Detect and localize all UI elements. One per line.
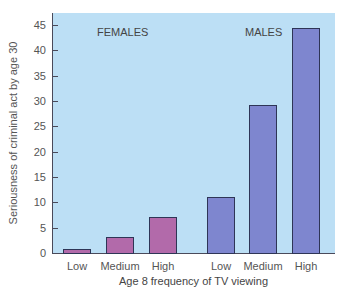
- bar-males-high: [292, 28, 320, 254]
- y-axis-label: Seriousness of criminal act by age 30: [7, 42, 19, 225]
- x-category-male-high: High: [281, 260, 331, 272]
- males-group-label: MALES: [245, 26, 282, 38]
- y-tick: [53, 152, 58, 153]
- y-tick: [53, 101, 58, 102]
- y-tick-label: 45: [24, 19, 46, 31]
- y-tick-label: 0: [24, 247, 46, 259]
- y-tick-label: 25: [24, 120, 46, 132]
- bar-males-medium: [249, 105, 277, 254]
- y-tick-label: 35: [24, 70, 46, 82]
- y-tick-label: 30: [24, 95, 46, 107]
- y-tick-label: 10: [24, 196, 46, 208]
- females-group-label: FEMALES: [97, 26, 148, 38]
- bar-males-low: [207, 197, 235, 254]
- x-category-female-high: High: [138, 260, 188, 272]
- y-tick-label: 40: [24, 44, 46, 56]
- y-tick-label: 15: [24, 171, 46, 183]
- y-tick: [53, 50, 58, 51]
- y-tick: [53, 228, 58, 229]
- bar-females-low: [63, 249, 91, 254]
- y-tick: [53, 177, 58, 178]
- y-tick: [53, 76, 58, 77]
- bar-females-medium: [106, 237, 134, 254]
- x-axis-label: Age 8 frequency of TV viewing: [52, 275, 335, 287]
- y-tick: [53, 202, 58, 203]
- y-tick: [53, 253, 58, 254]
- y-tick: [53, 25, 58, 26]
- y-tick-label: 5: [24, 222, 46, 234]
- bar-females-high: [149, 217, 177, 254]
- y-tick-label: 20: [24, 146, 46, 158]
- y-tick: [53, 126, 58, 127]
